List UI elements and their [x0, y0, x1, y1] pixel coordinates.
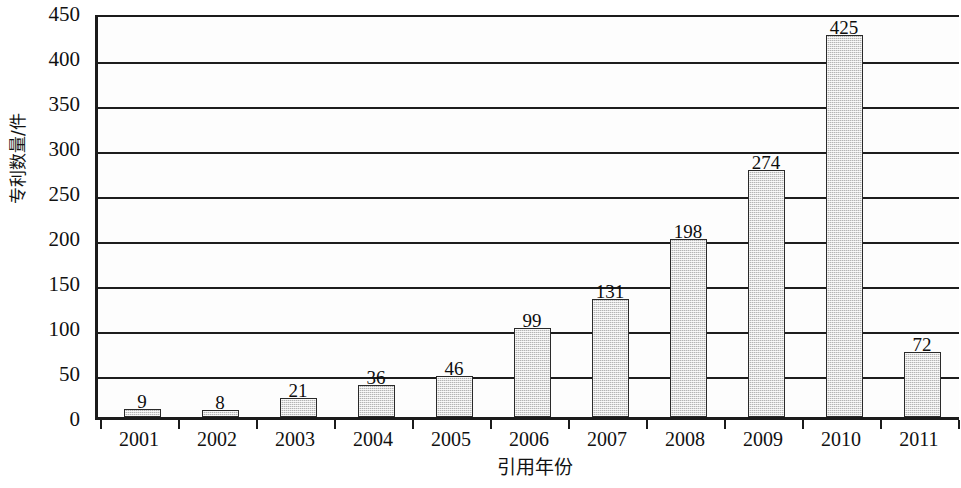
- y-tick-label: 350: [0, 94, 80, 115]
- x-tick-label: 2004: [334, 429, 412, 449]
- bar-value-label: 72: [884, 335, 961, 354]
- x-tick-label: 2010: [802, 429, 880, 449]
- x-tick-label: 2008: [646, 429, 724, 449]
- bar-value-label: 131: [572, 282, 649, 301]
- y-tick-label: 50: [0, 364, 80, 385]
- x-axis-tick: [100, 420, 102, 429]
- x-axis-tick: [490, 420, 492, 429]
- x-axis-tick: [412, 420, 414, 429]
- bar-value-label: 36: [338, 368, 415, 387]
- x-tick-label: 2005: [412, 429, 490, 449]
- x-tick-label: 2007: [568, 429, 646, 449]
- x-tick-label: 2001: [100, 429, 178, 449]
- x-tick-label: 2011: [880, 429, 958, 449]
- bar[interactable]: [670, 239, 707, 417]
- bar[interactable]: [436, 376, 473, 417]
- x-axis-tick: [178, 420, 180, 429]
- bar[interactable]: [748, 170, 785, 417]
- x-axis-tick: [568, 420, 570, 429]
- x-axis-tick: [646, 420, 648, 429]
- x-axis-tick: [256, 420, 258, 429]
- bar-value-label: 9: [104, 392, 181, 411]
- y-tick-label: 400: [0, 49, 80, 70]
- bar[interactable]: [826, 35, 863, 418]
- y-tick-label: 300: [0, 139, 80, 160]
- y-tick-label: 150: [0, 274, 80, 295]
- bar-value-label: 46: [416, 359, 493, 378]
- bar[interactable]: [514, 328, 551, 417]
- bar[interactable]: [904, 352, 941, 417]
- x-axis-title: 引用年份: [487, 458, 583, 477]
- bar-value-label: 425: [806, 18, 883, 37]
- x-tick-label: 2009: [724, 429, 802, 449]
- bar-value-label: 99: [494, 311, 571, 330]
- bar[interactable]: [592, 299, 629, 417]
- y-axis-tick-labels: 050100150200250300350400450: [0, 0, 88, 488]
- x-axis-tick: [334, 420, 336, 429]
- y-tick-label: 100: [0, 319, 80, 340]
- x-tick-label: 2006: [490, 429, 568, 449]
- x-axis-tick: [958, 420, 960, 429]
- bar-series: 982136469913119827442572: [98, 17, 959, 417]
- bar-value-label: 21: [260, 381, 337, 400]
- y-tick-label: 0: [0, 409, 80, 430]
- y-tick-label: 200: [0, 229, 80, 250]
- x-axis-tick: [724, 420, 726, 429]
- y-tick-label: 450: [0, 4, 80, 25]
- plot-area: 982136469913119827442572: [95, 15, 959, 420]
- x-axis-tick: [802, 420, 804, 429]
- bar[interactable]: [358, 385, 395, 417]
- y-tick-label: 250: [0, 184, 80, 205]
- bar-value-label: 274: [728, 153, 805, 172]
- bar-value-label: 8: [182, 393, 259, 412]
- x-tick-label: 2002: [178, 429, 256, 449]
- x-axis-tick: [880, 420, 882, 429]
- bar-value-label: 198: [650, 222, 727, 241]
- x-tick-label: 2003: [256, 429, 334, 449]
